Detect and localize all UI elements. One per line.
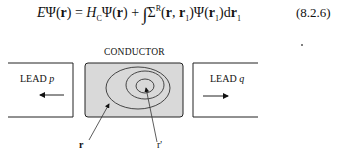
lead-p-label: LEAD p [20,73,54,84]
lead-q-box [193,63,258,117]
lead-p-box [8,63,73,117]
point-r-label: r [79,139,83,150]
lead-q-label: LEAD q [210,73,244,84]
point-r1-label: r' [157,139,162,150]
